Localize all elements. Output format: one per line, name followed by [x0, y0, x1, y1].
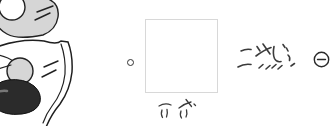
scribble-glyph-cross-strokes	[179, 100, 196, 119]
below-box-scribbles	[155, 96, 201, 124]
handwritten-char-ji	[272, 45, 288, 70]
handwritten-comma	[288, 55, 295, 66]
small-circle-marker	[127, 59, 134, 66]
handwritten-char-ko	[238, 49, 251, 67]
handwritten-char-su	[256, 44, 271, 69]
circled-minus-icon	[312, 50, 331, 69]
artwork-cat-faces	[0, 0, 115, 126]
scribble-glyph-arc-strokes	[159, 104, 171, 118]
handwritten-right-text	[236, 40, 298, 76]
top-cat-nose-circle	[0, 0, 25, 20]
empty-panel-box	[145, 19, 218, 93]
dark-nose-highlight	[0, 91, 7, 92]
manga-page-crop	[0, 0, 335, 126]
